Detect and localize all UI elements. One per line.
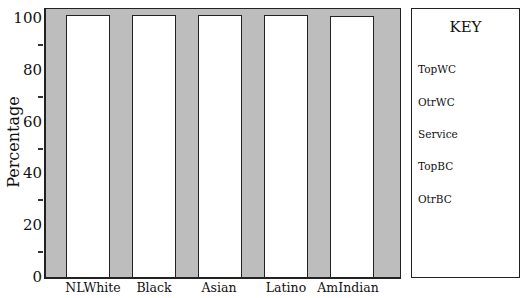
legend-box: KEY TopWC OtrWC Service TopBC OtrBC <box>411 8 520 278</box>
y-minor-tick <box>38 199 43 201</box>
y-tick-label: 100 <box>13 11 42 26</box>
legend-title: KEY <box>412 18 519 36</box>
y-axis-line <box>44 8 46 278</box>
legend-item-topwc: TopWC <box>418 63 456 75</box>
x-tick-label: Black <box>136 281 171 295</box>
bar-latino <box>264 15 308 278</box>
x-tick-label: AmIndian <box>317 281 378 295</box>
x-tick-label: NLWhite <box>65 281 120 295</box>
y-axis-title: Percentage <box>4 96 23 188</box>
legend-item-service: Service <box>418 128 458 140</box>
x-tick-label: Asian <box>202 281 237 295</box>
y-minor-tick <box>38 148 43 150</box>
y-tick-label: 80 <box>23 63 42 78</box>
legend-item-otrbc: OtrBC <box>418 193 452 205</box>
y-minor-tick <box>38 96 43 98</box>
y-tick-label: 20 <box>23 218 42 233</box>
x-tick-label: Latino <box>266 281 306 295</box>
x-axis-line <box>44 277 401 279</box>
y-tick-label: 60 <box>23 115 42 130</box>
y-minor-tick <box>38 44 43 46</box>
y-tick-label: 0 <box>32 270 42 285</box>
bar-black <box>132 15 176 278</box>
legend-item-topbc: TopBC <box>418 160 453 172</box>
y-minor-tick <box>38 251 43 253</box>
bar-nlwhite <box>66 15 110 278</box>
bar-asian <box>198 15 242 278</box>
bar-amindian <box>330 16 374 278</box>
y-tick-label: 40 <box>23 166 42 181</box>
legend-item-otrwc: OtrWC <box>418 96 455 108</box>
